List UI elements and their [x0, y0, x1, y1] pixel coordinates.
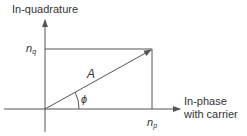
nq-label: nq [26, 42, 36, 56]
angle-label: ϕ [81, 93, 87, 105]
y-axis-label: In-quadrature [12, 3, 78, 15]
x-axis-label-line2: with carrier [183, 108, 238, 120]
vector-label: A [86, 67, 95, 81]
np-label: np [147, 116, 157, 130]
vector-a [45, 50, 151, 109]
phasor-diagram: In-quadrature In-phase with carrier nq n… [0, 0, 247, 136]
angle-arc [75, 92, 79, 109]
x-axis-label-line1: In-phase [184, 95, 227, 107]
